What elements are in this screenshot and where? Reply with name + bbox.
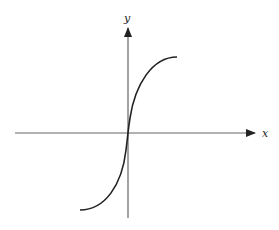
x-axis-label: x: [262, 127, 269, 140]
y-axis-label: y: [123, 12, 131, 25]
graph: x y: [0, 0, 279, 230]
